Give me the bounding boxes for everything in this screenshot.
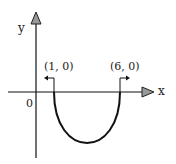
point-1-arrow-icon (44, 76, 48, 81)
y-axis-label: y (18, 22, 25, 34)
point-6-label: (6, 0) (110, 61, 140, 72)
x-axis-arrowhead-icon (142, 87, 154, 97)
point-6-arrow-icon (126, 76, 130, 81)
x-axis-label: x (158, 85, 165, 97)
y-axis-arrowhead-icon (31, 12, 41, 24)
parabola-curve (54, 92, 120, 143)
origin-label: 0 (26, 98, 33, 109)
diagram-canvas (0, 0, 176, 164)
point-1-label: (1, 0) (44, 61, 74, 72)
point-6-marker-icon (120, 78, 128, 92)
point-1-marker-icon (46, 78, 54, 92)
